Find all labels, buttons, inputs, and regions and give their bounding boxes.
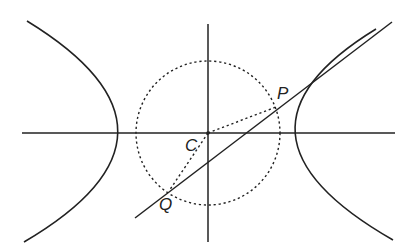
label-c: C <box>185 136 198 155</box>
radius-cp <box>208 107 276 133</box>
hyperbola-right-branch <box>295 29 393 240</box>
hyperbola-diagram: C P Q <box>0 0 400 251</box>
center-point <box>206 131 210 135</box>
tangent-line <box>135 22 392 218</box>
label-p: P <box>277 84 289 103</box>
label-q: Q <box>159 195 172 214</box>
hyperbola-left-branch <box>24 21 118 242</box>
